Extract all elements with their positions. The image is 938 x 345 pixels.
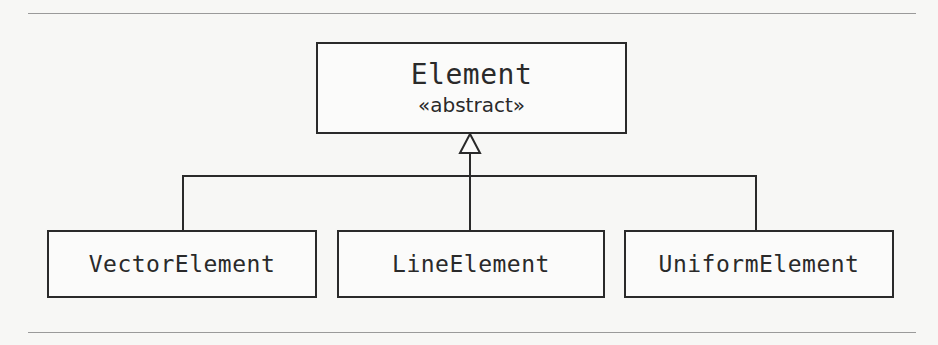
- class-stereotype: «abstract»: [418, 92, 525, 118]
- class-box-line-element: LineElement: [337, 230, 605, 298]
- class-name: VectorElement: [89, 251, 276, 277]
- class-name: LineElement: [392, 251, 550, 277]
- generalization-arrow-icon: [460, 134, 480, 153]
- class-box-element: Element «abstract»: [316, 42, 627, 134]
- diagram-canvas: { "diagram": { "type": "uml-class-inheri…: [0, 0, 938, 345]
- class-box-uniform-element: UniformElement: [624, 230, 894, 298]
- class-name: Element: [411, 58, 533, 92]
- bottom-rule: [28, 332, 916, 333]
- class-box-vector-element: VectorElement: [47, 230, 317, 298]
- class-name: UniformElement: [659, 251, 860, 277]
